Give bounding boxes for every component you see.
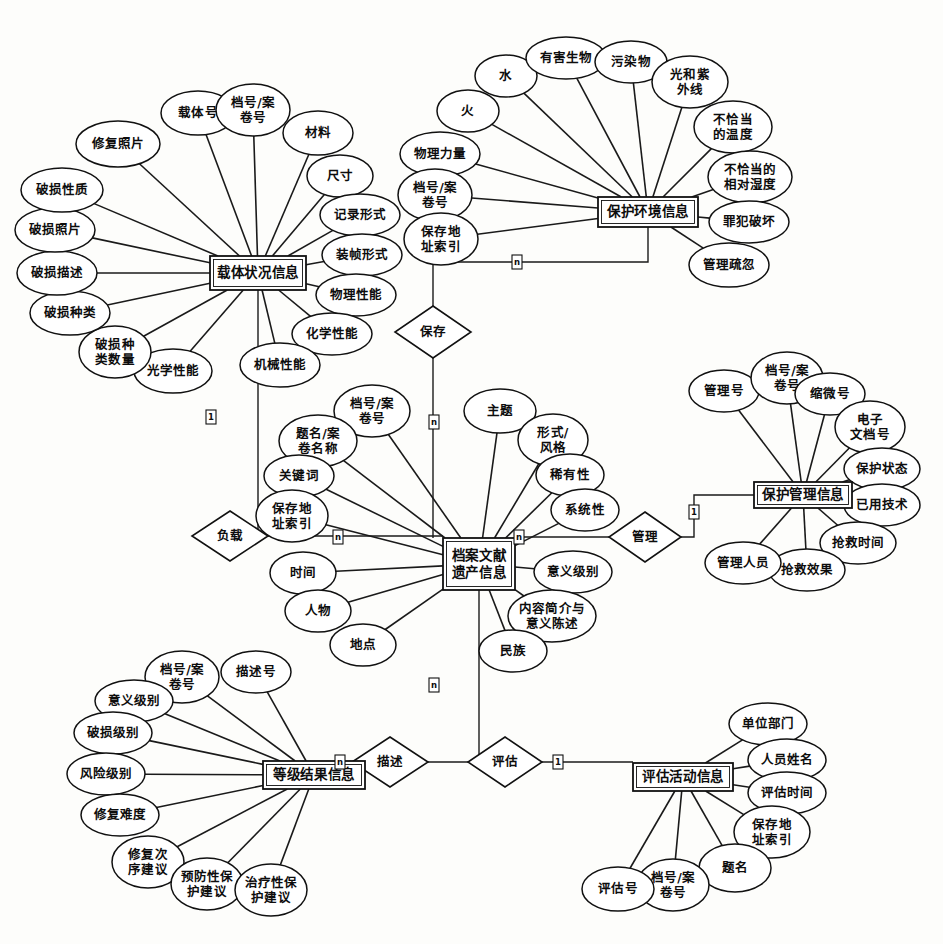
relationship-node-preserve[interactable]: 保存 bbox=[395, 306, 471, 358]
entity-node-environment[interactable]: 保护环境信息 bbox=[598, 197, 698, 227]
attribute-edge bbox=[149, 741, 263, 765]
node-label: 抢救时间 bbox=[832, 535, 885, 550]
cardinality-marker: n bbox=[429, 415, 439, 429]
node-label: n bbox=[514, 257, 520, 267]
cardinality-marker: n bbox=[514, 530, 524, 544]
node-label: 形式/风格 bbox=[537, 424, 568, 454]
attribute-edge bbox=[385, 589, 443, 629]
attribute-node[interactable]: 保存地址索引 bbox=[404, 213, 478, 265]
attribute-node[interactable]: 修复照片 bbox=[76, 121, 160, 167]
attribute-node[interactable]: 机械性能 bbox=[240, 343, 320, 387]
node-label: 不恰当的相对湿度 bbox=[724, 161, 777, 191]
node-label: 不恰当的温度 bbox=[713, 111, 753, 141]
node-label: 罪犯破坏 bbox=[723, 214, 776, 229]
attribute-edge bbox=[280, 789, 308, 865]
cardinality-marker: n bbox=[333, 530, 343, 544]
node-label: 记录形式 bbox=[334, 207, 387, 222]
attribute-node[interactable]: 不恰当的温度 bbox=[694, 101, 772, 153]
entity-node-carrier[interactable]: 载体状况信息 bbox=[210, 256, 306, 290]
attribute-edge bbox=[156, 786, 263, 808]
attribute-edge bbox=[472, 198, 598, 208]
attribute-node[interactable]: 预防性保护建议 bbox=[171, 858, 243, 910]
node-label: 民族 bbox=[500, 643, 526, 658]
attribute-edge bbox=[515, 590, 524, 596]
attribute-edge bbox=[92, 238, 210, 263]
attribute-node[interactable]: 抢救效果 bbox=[769, 549, 845, 591]
attribute-node[interactable]: 时间 bbox=[270, 552, 336, 594]
attribute-node[interactable]: 管理疏忽 bbox=[689, 243, 769, 287]
attribute-node[interactable]: 破损描述 bbox=[17, 251, 97, 295]
node-label: 管理号 bbox=[704, 383, 744, 398]
entity-node-heritage[interactable]: 档案文献遗产信息 bbox=[443, 538, 515, 590]
node-label: 修复次序建议 bbox=[127, 846, 168, 876]
attribute-node[interactable]: 档号/案卷号 bbox=[216, 84, 290, 136]
attribute-node[interactable]: 民族 bbox=[479, 630, 547, 672]
attribute-node[interactable]: 不恰当的相对湿度 bbox=[708, 151, 792, 203]
attribute-edge bbox=[207, 696, 295, 761]
attribute-edge bbox=[705, 740, 742, 763]
attribute-node[interactable]: 管理人员 bbox=[705, 542, 781, 584]
attribute-edge bbox=[206, 134, 252, 256]
attribute-node[interactable]: 风险级别 bbox=[67, 753, 145, 795]
attribute-edge bbox=[476, 164, 598, 198]
attribute-node[interactable]: 题名 bbox=[699, 844, 771, 892]
attribute-node[interactable]: 管理号 bbox=[689, 370, 759, 412]
node-label: 题名 bbox=[722, 860, 748, 875]
attribute-node[interactable]: 破损种类数量 bbox=[79, 326, 151, 378]
attribute-node[interactable]: 修复难度 bbox=[81, 794, 159, 836]
attribute-edge bbox=[806, 415, 824, 482]
attribute-node[interactable]: 破损级别 bbox=[74, 712, 152, 754]
node-label: 意义级别 bbox=[108, 693, 161, 708]
attribute-edge bbox=[692, 190, 714, 197]
node-label: 载体号 bbox=[178, 105, 218, 120]
attribute-node[interactable]: 描述号 bbox=[221, 651, 291, 693]
attribute-node[interactable]: 火 bbox=[437, 90, 499, 132]
attribute-node[interactable]: 破损种类 bbox=[30, 291, 110, 335]
attribute-node[interactable]: 尺寸 bbox=[307, 155, 373, 197]
attribute-edge bbox=[144, 290, 228, 336]
attribute-node[interactable]: 治疗性保护建议 bbox=[235, 864, 307, 916]
relationship-node-manage[interactable]: 管理 bbox=[609, 512, 681, 562]
node-label: n bbox=[516, 532, 522, 542]
node-label: 保存地址索引 bbox=[420, 223, 461, 253]
entity-node-management[interactable]: 保护管理信息 bbox=[754, 482, 852, 508]
attribute-node[interactable]: 人物 bbox=[285, 590, 351, 632]
attribute-node[interactable]: 破损性质 bbox=[21, 168, 103, 212]
attribute-node[interactable]: 装帧形式 bbox=[322, 234, 402, 276]
node-label: n bbox=[431, 417, 437, 427]
node-label: n bbox=[431, 680, 437, 690]
attribute-node[interactable]: 评估号 bbox=[582, 867, 654, 911]
attribute-node[interactable]: 破损照片 bbox=[15, 208, 95, 252]
node-label: 地点 bbox=[350, 637, 376, 652]
attribute-node[interactable]: 已用技术 bbox=[844, 484, 920, 526]
attribute-edge bbox=[190, 290, 243, 351]
entity-node-assessment[interactable]: 评估活动信息 bbox=[633, 763, 733, 791]
cardinality-marker: 1 bbox=[206, 410, 216, 424]
attribute-node[interactable]: 电子文档号 bbox=[835, 401, 905, 453]
attribute-node[interactable]: 有害生物 bbox=[526, 37, 606, 79]
entity-node-grade[interactable]: 等级结果信息 bbox=[263, 761, 365, 789]
attribute-node[interactable]: 材料 bbox=[283, 111, 353, 155]
attribute-node[interactable]: 罪犯破坏 bbox=[709, 201, 789, 243]
attribute-node[interactable]: 意义级别 bbox=[534, 551, 612, 593]
attribute-node[interactable]: 地点 bbox=[330, 624, 396, 666]
attribute-node[interactable]: 系统性 bbox=[551, 489, 619, 531]
node-label: 污染物 bbox=[611, 54, 651, 69]
node-label: 风险级别 bbox=[80, 766, 133, 781]
attribute-edge bbox=[177, 789, 287, 847]
node-label: 破损种类 bbox=[44, 305, 97, 320]
node-label: 破损描述 bbox=[31, 265, 84, 280]
node-label: 管理疏忽 bbox=[703, 257, 756, 272]
attribute-edge bbox=[306, 284, 319, 287]
attribute-node[interactable]: 记录形式 bbox=[320, 194, 400, 236]
node-label: 破损级别 bbox=[87, 725, 140, 740]
node-label: 修复照片 bbox=[91, 136, 145, 151]
attribute-edge bbox=[515, 567, 534, 569]
attribute-group-carrier: 修复照片载体号档号/案卷号材料尺寸记录形式装帧形式物理性能化学性能机械性能光学性… bbox=[15, 84, 402, 393]
attribute-edge bbox=[733, 785, 750, 788]
node-label: 关键词 bbox=[279, 468, 319, 483]
node-label: 稀有性 bbox=[550, 467, 590, 482]
attribute-node[interactable]: 保存地址索引 bbox=[256, 490, 328, 542]
attribute-node[interactable]: 物理性能 bbox=[316, 274, 396, 316]
attribute-node[interactable]: 光和紫外线 bbox=[652, 56, 728, 108]
